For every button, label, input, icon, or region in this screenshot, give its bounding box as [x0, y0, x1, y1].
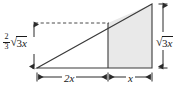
label-total-height: √ 3x — [156, 36, 173, 49]
radicand: 3x — [16, 36, 27, 49]
radical-expression-partial: √ 3x — [11, 36, 28, 49]
variable-x: x — [22, 37, 27, 49]
fraction-two-thirds: 2 3 — [3, 33, 10, 51]
geometry-figure: 2 3 √ 3x √ 3x 2x x — [0, 0, 175, 89]
fraction-denominator: 3 — [4, 43, 10, 51]
radicand: 3x — [162, 36, 173, 49]
label-partial-height: 2 3 √ 3x — [3, 33, 27, 51]
radical-expression-total: √ 3x — [156, 36, 173, 49]
fraction-numerator: 2 — [4, 33, 10, 41]
label-base-left: 2x — [62, 73, 76, 84]
variable-x: x — [168, 37, 173, 49]
label-base-right: x — [126, 73, 135, 84]
shaded-rectangle — [108, 4, 152, 68]
